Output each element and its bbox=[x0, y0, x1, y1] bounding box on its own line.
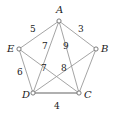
weight-label-a-b: 3 bbox=[78, 25, 84, 34]
weight-label-a-d: 7 bbox=[42, 42, 48, 51]
vertex-label-b: B bbox=[101, 44, 108, 54]
vertex-a[interactable] bbox=[57, 19, 61, 23]
vertex-label-e: E bbox=[7, 44, 14, 54]
weight-label-d-c: 4 bbox=[54, 102, 60, 111]
weighted-graph-diagram: A B C D E 5 3 6 4 7 9 7 8 bbox=[0, 0, 114, 115]
weight-label-a-c: 9 bbox=[63, 42, 69, 51]
edge-a-c bbox=[59, 21, 79, 93]
vertex-d[interactable] bbox=[31, 91, 35, 95]
weight-label-e-d: 6 bbox=[17, 68, 23, 77]
edge-b-c bbox=[79, 49, 96, 93]
vertex-c[interactable] bbox=[77, 91, 81, 95]
weight-label-a-e: 5 bbox=[30, 25, 36, 34]
weight-label-e-c: 7 bbox=[41, 64, 47, 73]
vertex-e[interactable] bbox=[17, 47, 21, 51]
vertex-b[interactable] bbox=[94, 47, 98, 51]
vertex-label-d: D bbox=[22, 90, 30, 100]
edge-a-e bbox=[19, 21, 59, 49]
edge-e-c bbox=[19, 49, 79, 93]
weight-label-d-b: 8 bbox=[61, 64, 67, 73]
graph-canvas bbox=[0, 0, 114, 115]
edge-a-d bbox=[33, 21, 59, 93]
vertex-label-a: A bbox=[56, 5, 63, 15]
vertex-label-c: C bbox=[84, 90, 92, 100]
